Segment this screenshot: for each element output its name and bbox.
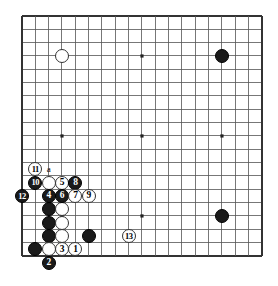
black-move-10: 10 (28, 176, 42, 190)
white-move-5: 5 (55, 176, 69, 190)
white-stone-d4 (55, 216, 69, 230)
black-move-2: 2 (42, 256, 56, 270)
goban-grid (0, 0, 278, 286)
white-stone-c2 (42, 242, 56, 256)
black-stone-c3 (42, 229, 56, 243)
black-stone-g3 (82, 229, 96, 243)
white-stone-d3 (55, 229, 69, 243)
white-stone-upper-left (55, 49, 69, 63)
black-stone-upper-right (215, 49, 229, 63)
point-label-a: a (44, 165, 54, 174)
black-move-8: 8 (68, 176, 82, 190)
go-board-diagram: 11105812467931213a (0, 0, 278, 286)
white-move-9: 9 (82, 189, 96, 203)
black-move-6: 6 (55, 189, 69, 203)
black-move-12: 12 (15, 189, 29, 203)
black-stone-c4 (42, 216, 56, 230)
white-stone-b2-12 (42, 176, 56, 190)
black-move-4: 4 (42, 189, 56, 203)
black-stone-c5 (42, 202, 56, 216)
white-move-13: 13 (122, 229, 136, 243)
black-stone-lower-right (215, 209, 229, 223)
